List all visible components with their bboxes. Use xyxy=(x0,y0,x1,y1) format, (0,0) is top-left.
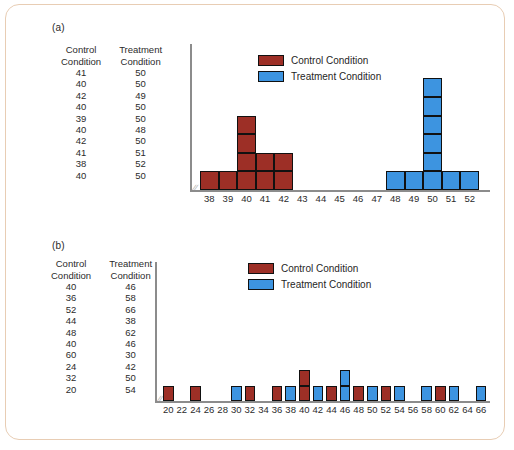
data-square xyxy=(256,153,275,172)
treatment-value: 66 xyxy=(100,304,161,315)
data-square xyxy=(423,116,442,135)
data-square xyxy=(245,386,256,402)
panel-b-col-header-treatment: Treatment Condition xyxy=(100,258,161,281)
control-header-line1: Control xyxy=(66,44,97,55)
treatment-value: 58 xyxy=(100,292,161,303)
control-value: 44 xyxy=(42,315,100,326)
data-square xyxy=(219,171,238,190)
table-row: 3852 xyxy=(52,158,171,169)
data-square xyxy=(423,134,442,153)
panel-b-table-body: 4046365852664438486240466030244232502054 xyxy=(42,281,161,395)
data-square xyxy=(299,370,310,386)
table-row: 4046 xyxy=(42,281,161,292)
data-square xyxy=(353,386,364,402)
data-square xyxy=(326,386,337,402)
panel-a-data-table: Control Condition Treatment Condition 41… xyxy=(52,44,171,181)
panel-a-plot: //383940414243444546474849505152 xyxy=(190,44,490,206)
data-square xyxy=(460,171,479,190)
data-square xyxy=(381,386,392,402)
table-row: 3658 xyxy=(42,292,161,303)
panel-b-plot: //20222426283032343638404244464850525456… xyxy=(155,262,490,417)
treatment-value: 50 xyxy=(110,170,171,181)
data-square xyxy=(386,171,405,190)
table-row: 4862 xyxy=(42,327,161,338)
data-square xyxy=(237,116,256,135)
treatment-value: 50 xyxy=(110,135,171,146)
table-row: 4048 xyxy=(52,124,171,135)
table-row: 4151 xyxy=(52,147,171,158)
treatment-value: 42 xyxy=(100,361,161,372)
data-square xyxy=(190,386,201,402)
data-square xyxy=(163,386,174,402)
data-square xyxy=(367,386,378,402)
control-value: 40 xyxy=(52,170,110,181)
data-square xyxy=(231,386,242,402)
control-value: 60 xyxy=(42,349,100,360)
data-square xyxy=(435,386,446,402)
data-square xyxy=(237,153,256,172)
table-row: 2054 xyxy=(42,384,161,395)
data-square xyxy=(476,386,487,402)
y-axis xyxy=(190,44,192,190)
table-row: 3950 xyxy=(52,113,171,124)
treatment-header-line2: Condition xyxy=(121,56,161,67)
data-square xyxy=(274,171,293,190)
data-square xyxy=(285,386,296,402)
data-square xyxy=(256,171,275,190)
data-square xyxy=(299,386,310,402)
control-value: 32 xyxy=(42,372,100,383)
data-square xyxy=(200,171,219,190)
treatment-value: 51 xyxy=(110,147,171,158)
data-square xyxy=(449,386,460,402)
treatment-value: 50 xyxy=(110,113,171,124)
x-tick-label: 66 xyxy=(470,404,492,415)
data-square xyxy=(405,171,424,190)
control-value: 48 xyxy=(42,327,100,338)
panel-a-table-body: 4150405042494050395040484250415138524050 xyxy=(52,67,171,181)
control-value: 42 xyxy=(52,90,110,101)
treatment-value: 46 xyxy=(100,281,161,292)
data-square xyxy=(237,171,256,190)
treatment-value: 50 xyxy=(110,101,171,112)
data-square xyxy=(394,386,405,402)
data-square xyxy=(423,97,442,116)
control-value: 42 xyxy=(52,135,110,146)
data-square xyxy=(272,386,283,402)
table-row: 4050 xyxy=(52,170,171,181)
data-square xyxy=(423,153,442,172)
treatment-value: 38 xyxy=(100,315,161,326)
control-value: 40 xyxy=(52,78,110,89)
control-value: 40 xyxy=(42,338,100,349)
treatment-header-line1: Treatment xyxy=(119,44,162,55)
table-row: 5266 xyxy=(42,304,161,315)
control-header-line2: Condition xyxy=(61,56,101,67)
table-row: 3250 xyxy=(42,372,161,383)
data-square xyxy=(340,386,351,402)
y-axis xyxy=(155,262,157,401)
treatment-value: 52 xyxy=(110,158,171,169)
panel-b-label: (b) xyxy=(52,240,65,251)
treatment-value: 30 xyxy=(100,349,161,360)
data-square xyxy=(340,370,351,386)
panel-b-data-table: Control Condition Treatment Condition 40… xyxy=(42,258,161,395)
data-square xyxy=(237,134,256,153)
control-value: 40 xyxy=(52,124,110,135)
x-axis xyxy=(190,190,490,192)
table-row: 4050 xyxy=(52,78,171,89)
treatment-value: 49 xyxy=(110,90,171,101)
table-row: 2442 xyxy=(42,361,161,372)
control-value: 24 xyxy=(42,361,100,372)
treatment-value: 50 xyxy=(110,78,171,89)
control-value: 40 xyxy=(52,101,110,112)
panel-a-col-header-control: Control Condition xyxy=(52,44,110,67)
treatment-value: 50 xyxy=(100,372,161,383)
table-row: 4150 xyxy=(52,67,171,78)
table-row: 4046 xyxy=(42,338,161,349)
control-value: 36 xyxy=(42,292,100,303)
table-row: 4050 xyxy=(52,101,171,112)
table-row: 4249 xyxy=(52,90,171,101)
table-row: 6030 xyxy=(42,349,161,360)
control-value: 41 xyxy=(52,147,110,158)
x-tick-label: 52 xyxy=(459,193,481,204)
treatment-value: 54 xyxy=(100,384,161,395)
